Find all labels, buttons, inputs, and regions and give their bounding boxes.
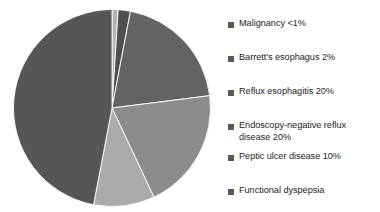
legend-label-malignancy: Malignancy <1% xyxy=(239,18,306,30)
pie-slice-group xyxy=(13,9,210,206)
legend-swatch-icon-barretts-esophagus xyxy=(227,55,235,63)
legend-swatch-icon-functional-dyspepsia xyxy=(227,188,235,196)
legend-label-peptic-ulcer-disease: Peptic ulcer disease 10% xyxy=(239,151,341,163)
legend-item-functional-dyspepsia[interactable]: Functional dyspepsia xyxy=(227,185,379,197)
legend-swatch-icon-peptic-ulcer-disease xyxy=(227,154,235,162)
legend-item-malignancy[interactable]: Malignancy <1% xyxy=(227,18,379,30)
legend-label-barretts-esophagus: Barrett's esophagus 2% xyxy=(239,52,335,64)
pie-chart-figure: Malignancy <1% Barrett's esophagus 2% Re… xyxy=(0,0,380,212)
legend-swatch-icon-malignancy xyxy=(227,21,235,29)
legend-item-peptic-ulcer-disease[interactable]: Peptic ulcer disease 10% xyxy=(227,151,379,163)
pie-svg xyxy=(13,9,211,207)
legend-label-functional-dyspepsia: Functional dyspepsia xyxy=(239,185,324,197)
pie-chart-plot-area xyxy=(13,9,211,207)
legend-swatch-icon-endoscopy-negative-reflux-disease xyxy=(227,123,235,131)
chart-legend: Malignancy <1% Barrett's esophagus 2% Re… xyxy=(227,12,379,204)
legend-swatch-icon-reflux-esophagitis xyxy=(227,89,235,97)
pie-slice[interactable] xyxy=(13,10,112,205)
legend-label-endoscopy-negative-reflux-disease: Endoscopy-negative reflux disease 20% xyxy=(239,120,346,143)
legend-item-barretts-esophagus[interactable]: Barrett's esophagus 2% xyxy=(227,52,379,64)
legend-item-reflux-esophagitis[interactable]: Reflux esophagitis 20% xyxy=(227,86,379,98)
legend-label-reflux-esophagitis: Reflux esophagitis 20% xyxy=(239,86,334,98)
legend-item-endoscopy-negative-reflux-disease[interactable]: Endoscopy-negative reflux disease 20% xyxy=(227,120,379,143)
